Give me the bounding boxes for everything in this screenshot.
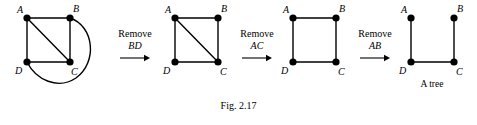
graph-panel-4: A B C D A tree (386, 0, 477, 100)
vertex-label-a: A (282, 4, 290, 15)
vertex-c (450, 58, 457, 65)
vertex-label-d: D (162, 65, 171, 76)
vertex-a (23, 14, 30, 21)
vertex-a (171, 14, 178, 21)
vertex-b (332, 14, 339, 21)
vertex-b (214, 14, 221, 21)
vertex-d (23, 58, 30, 65)
vertex-label-c: C (338, 66, 345, 77)
vertex-label-b: B (73, 3, 79, 14)
edge-ac-diagonal (27, 18, 70, 62)
graph-sequence-row: A B C D Remove BD (0, 0, 477, 100)
vertex-label-b: B (457, 3, 463, 14)
vertex-label-d: D (398, 65, 407, 76)
vertex-label-c: C (220, 66, 227, 77)
vertex-a (289, 14, 296, 21)
vertex-label-c: C (456, 66, 463, 77)
tree-caption: A tree (421, 79, 444, 89)
vertex-label-a: A (164, 4, 172, 15)
vertex-label-c: C (71, 66, 78, 77)
vertex-label-d: D (280, 65, 289, 76)
vertex-label-b: B (221, 3, 227, 14)
vertex-a (407, 14, 414, 21)
vertex-b (66, 14, 73, 21)
vertex-d (171, 58, 178, 65)
graph-panel-1: A B C D (2, 0, 102, 100)
vertex-c (214, 58, 221, 65)
figure-caption: Fig. 2.17 (0, 100, 477, 111)
vertex-label-d: D (14, 65, 23, 76)
vertex-c (66, 58, 73, 65)
vertex-c (332, 58, 339, 65)
vertex-d (407, 58, 414, 65)
vertex-label-a: A (16, 4, 24, 15)
edge-ac-diagonal (175, 18, 218, 62)
vertex-d (289, 58, 296, 65)
vertex-label-b: B (339, 3, 345, 14)
vertex-label-a: A (400, 4, 408, 15)
figure-container: A B C D Remove BD (0, 0, 477, 125)
vertex-b (450, 14, 457, 21)
